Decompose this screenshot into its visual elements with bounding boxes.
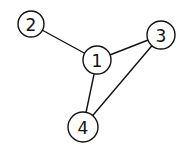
nodes-group: 1234 (18, 11, 175, 142)
node-3: 3 (147, 21, 175, 49)
node-label: 3 (156, 26, 167, 46)
graph-svg: 1234 (0, 0, 187, 152)
edges-group (31, 24, 161, 127)
node-label: 1 (92, 51, 103, 71)
node-2: 2 (18, 11, 44, 37)
node-label: 2 (26, 15, 37, 35)
node-label: 4 (78, 118, 89, 138)
node-1: 1 (83, 46, 111, 74)
node-4: 4 (68, 112, 98, 142)
graph-diagram: 1234 (0, 0, 187, 152)
